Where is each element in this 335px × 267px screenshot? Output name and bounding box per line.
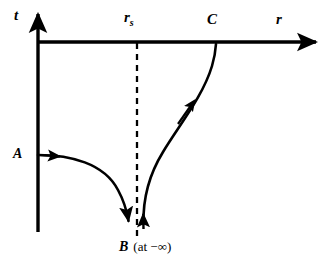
point-a-label: A: [13, 147, 22, 161]
worldline-b-to-c: [143, 44, 216, 224]
point-c-label: C: [207, 12, 217, 27]
schwarzschild-radius-label: rs: [124, 10, 134, 28]
rs-subscript: s: [130, 17, 134, 28]
worldline-c-direction-arrow: [178, 104, 192, 124]
t-axis-label: t: [14, 8, 18, 23]
point-b-label-group: B(at −∞): [119, 240, 171, 254]
worldline-a-to-b: [38, 155, 129, 221]
point-b-label: B: [119, 239, 128, 254]
point-b-note: (at −∞): [128, 239, 171, 254]
spacetime-diagram-figure: t r rs C A B(at −∞): [0, 0, 335, 267]
worldline-a-direction-arrow: [40, 155, 60, 156]
r-axis-label: r: [276, 12, 282, 27]
diagram-canvas: [0, 0, 335, 267]
